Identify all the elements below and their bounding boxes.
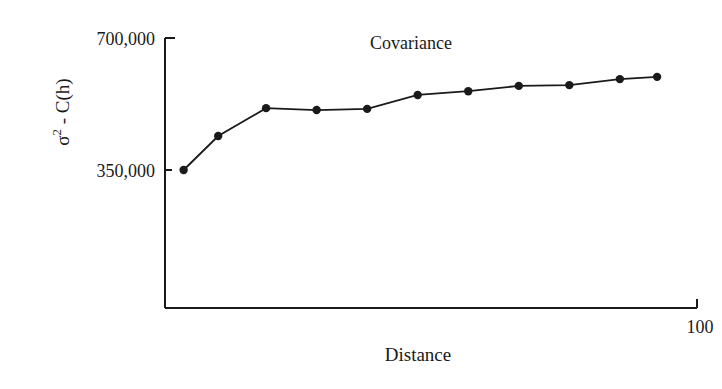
x-tick-label-100: 100 xyxy=(687,317,714,337)
data-point-marker xyxy=(565,81,573,89)
y-tick-label-700000: 700,000 xyxy=(97,29,156,49)
data-point-marker xyxy=(312,106,320,114)
y-tick-label-350000: 350,000 xyxy=(97,161,156,181)
data-point-marker xyxy=(653,73,661,81)
covariance-chart: Covariance 700,000 350,000 100 Distance … xyxy=(0,0,722,389)
x-axis-label: Distance xyxy=(385,344,451,365)
series-covariance xyxy=(179,73,661,175)
series-line xyxy=(184,77,657,170)
y-axis-label: σ2 - C(h) xyxy=(49,78,74,145)
data-point-marker xyxy=(262,104,270,112)
data-point-marker xyxy=(363,105,371,113)
data-point-marker xyxy=(414,91,422,99)
data-point-marker xyxy=(214,132,222,140)
data-point-marker xyxy=(515,82,523,90)
chart-title: Covariance xyxy=(370,33,452,53)
data-point-marker xyxy=(464,87,472,95)
y-axis-label-rest: - C(h) xyxy=(52,78,74,129)
y-axis-label-sigma: σ xyxy=(52,135,73,145)
data-point-marker xyxy=(616,75,624,83)
data-point-marker xyxy=(179,166,187,174)
